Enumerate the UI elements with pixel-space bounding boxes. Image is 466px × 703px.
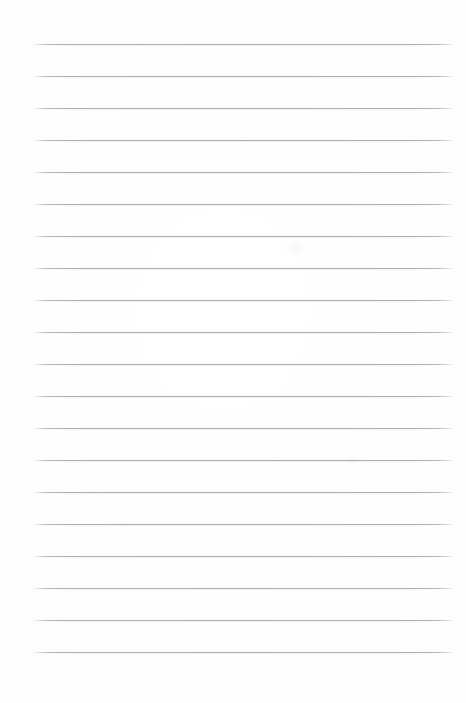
- page-text-content: [0, 0, 466, 703]
- page-canvas: [0, 0, 466, 703]
